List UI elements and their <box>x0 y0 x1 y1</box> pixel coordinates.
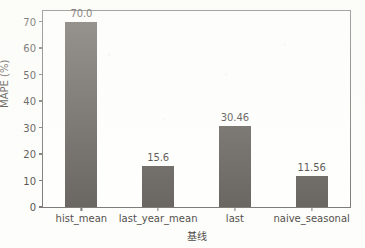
y-axis-tick <box>39 100 43 101</box>
y-axis-tick <box>39 21 43 22</box>
x-axis-tick <box>311 207 312 211</box>
x-axis-tick-label: last_year_mean <box>119 213 198 224</box>
y-axis-tick-label: 30 <box>23 122 36 133</box>
x-axis-tick <box>81 207 82 211</box>
x-axis-tick-label: last <box>226 213 244 224</box>
bar-value-label: 15.6 <box>147 152 169 163</box>
x-axis-tick <box>234 207 235 211</box>
x-axis-tick <box>158 207 159 211</box>
y-axis-tick-label: 40 <box>23 96 36 107</box>
y-axis-tick-label: 50 <box>23 69 36 80</box>
bar <box>65 22 97 207</box>
y-axis-tick <box>39 153 43 154</box>
y-axis-tick <box>39 180 43 181</box>
bar <box>142 166 174 207</box>
bar <box>296 176 328 207</box>
bar-value-label: 11.56 <box>298 162 326 173</box>
y-axis-tick <box>39 206 43 207</box>
x-axis-tick-label: naive_seasonal <box>273 213 349 224</box>
y-axis-tick-label: 20 <box>23 149 36 160</box>
x-axis-label: 基线 <box>42 228 351 243</box>
y-axis-label: MAPE (%) <box>0 60 10 108</box>
y-axis-tick <box>39 127 43 128</box>
y-axis-tick-label: 70 <box>23 16 36 27</box>
bar <box>219 126 251 207</box>
chart-screenshot: 01020304050607070.0hist_mean15.6last_yea… <box>0 0 365 248</box>
y-axis-tick-label: 60 <box>23 43 36 54</box>
y-axis-tick <box>39 74 43 75</box>
bar-value-label: 70.0 <box>70 8 92 19</box>
plot-area: 01020304050607070.0hist_mean15.6last_yea… <box>43 11 350 207</box>
bar-value-label: 30.46 <box>221 112 249 123</box>
plot-frame: 01020304050607070.0hist_mean15.6last_yea… <box>42 10 351 208</box>
x-axis-tick-label: hist_mean <box>56 213 108 224</box>
y-axis-tick-label: 10 <box>23 175 36 186</box>
y-axis-tick <box>39 47 43 48</box>
y-axis-tick-label: 0 <box>30 202 36 213</box>
